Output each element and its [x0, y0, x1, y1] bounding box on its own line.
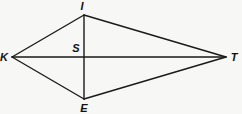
label-I: I — [80, 0, 84, 12]
label-E: E — [80, 102, 88, 114]
kite-diagram: I E K T S — [0, 0, 242, 114]
side-EK — [12, 57, 84, 99]
label-T: T — [231, 51, 239, 63]
label-S: S — [72, 42, 80, 54]
side-TE — [84, 57, 226, 99]
label-K: K — [0, 51, 9, 63]
side-IT — [84, 15, 226, 57]
